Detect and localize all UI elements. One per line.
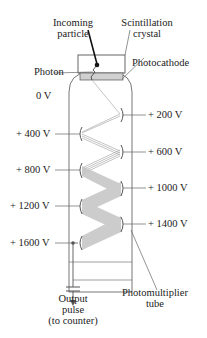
output-pulse-label: Output pulse (to counter) (43, 293, 103, 326)
dynode-label-1200: + 1200 V (10, 200, 50, 211)
dynode-label-200: + 200 V (148, 109, 182, 120)
dynode-label-1000: + 1000 V (148, 182, 188, 193)
dynode-label-800: + 800 V (16, 164, 50, 175)
incoming-particle-label: Incoming particle (45, 17, 101, 39)
photomultiplier-tube-label: Photomultiplier tube (115, 287, 195, 309)
scintillation-crystal-label: Scintillation crystal (114, 17, 180, 39)
scintillation-crystal (78, 55, 125, 73)
photon-label: Photon (34, 66, 64, 77)
photocathode (80, 73, 123, 80)
dynode-label-400: + 400 V (16, 128, 50, 139)
photocathode-label: Photocathode (132, 57, 189, 68)
zero-volt-label: 0 V (36, 90, 51, 101)
dynode-label-600: + 600 V (148, 146, 182, 157)
dynode-label-1400: + 1400 V (148, 218, 188, 229)
dynode-label-1600: + 1600 V (10, 237, 50, 248)
